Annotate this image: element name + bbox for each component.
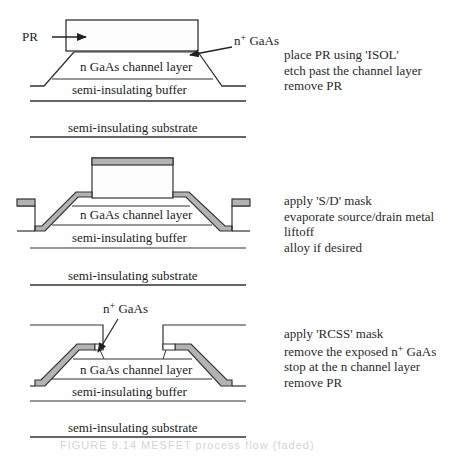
nplus-suffix: GaAs — [246, 33, 279, 48]
metal-on-outer-pr-left — [17, 199, 35, 206]
step-text: remove the exposed n — [284, 344, 398, 359]
step: remove PR — [284, 375, 436, 391]
step: remove the exposed n+ GaAs — [284, 344, 436, 360]
nplus-suffix: GaAs — [115, 301, 148, 316]
channel-layer-label: n GaAs channel layer — [80, 362, 192, 377]
metal-on-pr — [92, 158, 173, 165]
metal-on-outer-pr-right — [232, 199, 250, 206]
buffer-label: semi-insulating buffer — [72, 230, 187, 245]
channel-layer-label: n GaAs channel layer — [80, 59, 192, 74]
substrate-label: semi-insulating substrate — [68, 268, 198, 283]
step: etch past the channel layer — [284, 63, 422, 79]
step: apply 'S/D' mask — [284, 193, 434, 209]
step: evaporate source/drain metal — [284, 209, 434, 225]
step: alloy if desired — [284, 240, 434, 256]
process-steps-source-drain: apply 'S/D' mask evaporate source/drain … — [284, 193, 434, 255]
nplus-gaas-label: n+ GaAs — [234, 33, 279, 48]
pr-label: PR — [22, 29, 38, 44]
process-steps-isolation: place PR using 'ISOL' etch past the chan… — [284, 47, 422, 94]
step: apply 'RCSS' mask — [284, 326, 436, 342]
nplus-arrow — [98, 319, 118, 352]
channel-layer-label: n GaAs channel layer — [80, 207, 192, 222]
substrate-label: semi-insulating substrate — [68, 420, 198, 435]
mesa-outline — [30, 52, 74, 86]
process-steps-recess: apply 'RCSS' mask remove the exposed n+ … — [284, 326, 436, 390]
step: stop at the n channel layer — [284, 359, 436, 375]
substrate-label: semi-insulating substrate — [68, 120, 198, 135]
step: liftoff — [284, 224, 434, 240]
step: remove PR — [284, 78, 422, 94]
buffer-label: semi-insulating buffer — [72, 82, 187, 97]
photoresist-block — [66, 20, 198, 51]
buffer-label: semi-insulating buffer — [72, 384, 187, 399]
figure-caption: FIGURE 9.14 MESFET process flow (faded) — [60, 439, 315, 451]
step: place PR using 'ISOL' — [284, 47, 422, 63]
nplus-gaas-label: n+ GaAs — [103, 301, 148, 316]
step-text: GaAs — [403, 344, 436, 359]
